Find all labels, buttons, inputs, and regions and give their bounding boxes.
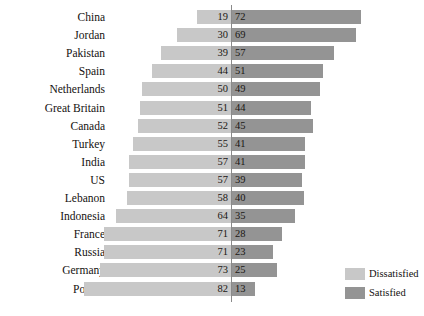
value-label-satisfied: 44	[235, 101, 246, 115]
chart-row: Russia7123	[0, 244, 424, 260]
chart-row: US5739	[0, 172, 424, 188]
value-label-satisfied: 69	[235, 28, 246, 42]
legend-item-satisfied[interactable]: Satisfied	[345, 285, 424, 301]
bar-group: 6435	[0, 209, 424, 223]
bar-group: 3957	[0, 46, 424, 60]
bar-group: 5541	[0, 137, 424, 151]
value-label-satisfied: 23	[235, 245, 246, 259]
value-label-satisfied: 39	[235, 173, 246, 187]
value-label-dissatisfied: 57	[218, 155, 229, 169]
chart-row: Turkey5541	[0, 136, 424, 152]
value-label-dissatisfied: 73	[218, 263, 229, 277]
value-label-satisfied: 57	[235, 46, 246, 60]
value-label-satisfied: 25	[235, 263, 246, 277]
bar-dissatisfied	[100, 263, 231, 277]
chart-row: India5741	[0, 154, 424, 170]
value-label-dissatisfied: 55	[218, 137, 229, 151]
bar-dissatisfied	[104, 245, 231, 259]
chart-row: Netherlands5049	[0, 81, 424, 97]
bar-dissatisfied	[116, 209, 231, 223]
bar-satisfied	[232, 10, 361, 24]
value-label-dissatisfied: 50	[218, 82, 229, 96]
value-label-satisfied: 40	[235, 191, 246, 205]
chart-row: Jordan3069	[0, 27, 424, 43]
value-label-dissatisfied: 51	[218, 101, 229, 115]
legend-swatch-satisfied-icon	[345, 287, 365, 299]
bar-satisfied	[232, 28, 356, 42]
value-label-dissatisfied: 52	[218, 119, 229, 133]
bar-dissatisfied	[129, 155, 231, 169]
chart-row: Great Britain5144	[0, 100, 424, 116]
value-label-dissatisfied: 44	[218, 64, 229, 78]
bar-group: 5739	[0, 173, 424, 187]
chart-row: Spain4451	[0, 63, 424, 79]
bar-dissatisfied	[84, 282, 231, 296]
value-label-satisfied: 72	[235, 10, 246, 24]
value-label-satisfied: 35	[235, 209, 246, 223]
bar-group: 5245	[0, 119, 424, 133]
value-label-satisfied: 13	[235, 282, 246, 296]
value-label-dissatisfied: 58	[218, 191, 229, 205]
chart-legend: Dissatisfied Satisfied	[345, 266, 424, 304]
bar-group: 5049	[0, 82, 424, 96]
value-label-satisfied: 49	[235, 82, 246, 96]
legend-item-dissatisfied[interactable]: Dissatisfied	[345, 266, 424, 282]
bar-group: 3069	[0, 28, 424, 42]
bar-dissatisfied	[133, 137, 231, 151]
legend-swatch-dissatisfied-icon	[345, 268, 365, 280]
diverging-bar-chart: China1972Jordan3069Pakistan3957Spain4451…	[0, 0, 424, 316]
value-label-dissatisfied: 19	[218, 10, 229, 24]
bar-group: 5840	[0, 191, 424, 205]
chart-row: Canada5245	[0, 118, 424, 134]
value-label-dissatisfied: 71	[218, 245, 229, 259]
bar-satisfied	[232, 46, 334, 60]
bar-dissatisfied	[127, 191, 231, 205]
bar-group: 7123	[0, 245, 424, 259]
bar-group: 1972	[0, 10, 424, 24]
chart-row: Lebanon5840	[0, 190, 424, 206]
legend-label-dissatisfied: Dissatisfied	[369, 266, 419, 282]
value-label-dissatisfied: 71	[218, 227, 229, 241]
legend-label-satisfied: Satisfied	[369, 285, 406, 301]
chart-row: France7128	[0, 226, 424, 242]
bar-satisfied	[232, 64, 323, 78]
bar-group: 5144	[0, 101, 424, 115]
value-label-dissatisfied: 30	[218, 28, 229, 42]
value-label-satisfied: 45	[235, 119, 246, 133]
value-label-satisfied: 41	[235, 137, 246, 151]
bar-dissatisfied	[104, 227, 231, 241]
value-label-satisfied: 51	[235, 64, 246, 78]
value-label-satisfied: 41	[235, 155, 246, 169]
value-label-dissatisfied: 82	[218, 282, 229, 296]
bar-group: 4451	[0, 64, 424, 78]
bar-group: 5741	[0, 155, 424, 169]
value-label-satisfied: 28	[235, 227, 246, 241]
bar-group: 7128	[0, 227, 424, 241]
chart-row: Pakistan3957	[0, 45, 424, 61]
chart-row: China1972	[0, 9, 424, 25]
chart-row: Indonesia6435	[0, 208, 424, 224]
value-label-dissatisfied: 39	[218, 46, 229, 60]
value-label-dissatisfied: 57	[218, 173, 229, 187]
bar-dissatisfied	[129, 173, 231, 187]
value-label-dissatisfied: 64	[218, 209, 229, 223]
